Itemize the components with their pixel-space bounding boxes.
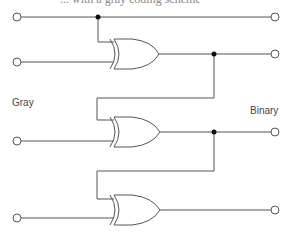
output-terminal-b1	[271, 128, 279, 136]
wire-tap-2	[97, 54, 214, 120]
output-terminal-b0	[271, 206, 279, 214]
junction-dot-1	[96, 15, 101, 20]
xor-gate-1	[110, 39, 159, 69]
junction-dot-3	[212, 130, 217, 135]
wire-tap-3	[97, 132, 214, 199]
input-terminal-g0	[13, 214, 21, 222]
junction-dot-2	[212, 52, 217, 57]
input-terminal-g3	[13, 13, 21, 21]
input-terminal-g1	[13, 137, 21, 145]
input-terminal-g2	[13, 58, 21, 66]
output-terminal-b3	[271, 13, 279, 21]
xor-gate-3	[110, 195, 160, 225]
output-terminal-b2	[271, 50, 279, 58]
wire-tap-1	[98, 17, 114, 42]
xor-gate-2	[110, 117, 160, 147]
gray-to-binary-circuit	[0, 0, 292, 240]
